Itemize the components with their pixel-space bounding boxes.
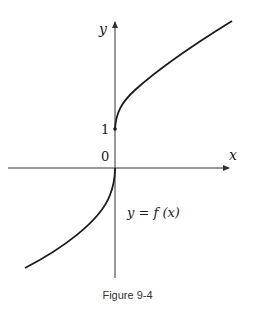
x-axis-label: x bbox=[229, 147, 237, 163]
curve-label: y = f (x) bbox=[126, 205, 180, 220]
curve-lower-branch bbox=[25, 168, 115, 268]
y-axis-label: y bbox=[98, 21, 108, 37]
origin-label: 0 bbox=[101, 149, 109, 164]
figure-caption: Figure 9-4 bbox=[0, 289, 255, 301]
function-graph: y x 0 1 y = f (x) bbox=[0, 0, 255, 309]
curve-upper-branch bbox=[115, 21, 232, 129]
y-intercept-label: 1 bbox=[101, 122, 109, 137]
point-y-intercept-marker bbox=[113, 127, 117, 131]
